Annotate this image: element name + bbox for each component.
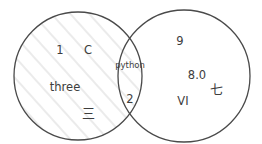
right-only-label: 七 <box>210 83 223 96</box>
right-only-label: VI <box>177 96 188 108</box>
left-only-label: 三 <box>82 107 95 120</box>
left-set-hatch-fill <box>0 0 262 144</box>
right-only-label: 8.0 <box>188 70 206 82</box>
left-only-label: three <box>50 82 80 94</box>
intersection-label: 2 <box>126 94 133 106</box>
venn-diagram: 1Cthree三python298.0VI七 <box>0 0 262 144</box>
intersection-label: python <box>115 61 145 70</box>
right-only-label: 9 <box>176 36 183 48</box>
left-only-label: C <box>84 45 92 57</box>
left-only-label: 1 <box>56 45 63 57</box>
venn-canvas <box>0 0 262 144</box>
